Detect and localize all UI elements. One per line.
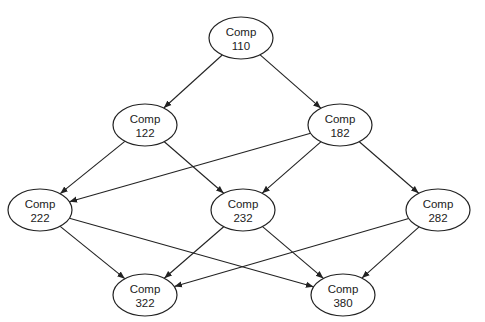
edge-110-to-122	[164, 55, 222, 108]
node-comp-182: Comp182	[308, 104, 372, 146]
edge-122-to-222	[60, 141, 125, 193]
edge-122-to-232	[164, 142, 223, 194]
edge-182-to-232	[262, 142, 321, 193]
edge-222-to-322	[60, 226, 125, 278]
edge-232-to-322	[164, 227, 223, 279]
node-ellipse	[308, 104, 372, 146]
node-ellipse	[209, 17, 273, 59]
node-label-line1: Comp	[325, 113, 356, 125]
node-label-line1: Comp	[423, 198, 454, 210]
node-label-line1: Comp	[130, 283, 161, 295]
node-ellipse	[211, 189, 275, 231]
nodes-layer: Comp110Comp122Comp182Comp222Comp232Comp2…	[8, 17, 470, 316]
node-comp-232: Comp232	[211, 189, 275, 231]
node-label-line2: 222	[30, 212, 49, 224]
node-comp-122: Comp122	[113, 104, 177, 146]
node-ellipse	[311, 274, 375, 316]
dependency-graph: Comp110Comp122Comp182Comp222Comp232Comp2…	[0, 0, 485, 322]
node-label-line1: Comp	[25, 198, 56, 210]
node-label-line1: Comp	[226, 26, 257, 38]
node-label-line2: 122	[135, 127, 154, 139]
node-label-line1: Comp	[130, 113, 161, 125]
node-label-line2: 322	[135, 297, 154, 309]
edge-182-to-282	[359, 142, 418, 194]
node-comp-380: Comp380	[311, 274, 375, 316]
node-ellipse	[8, 189, 72, 231]
node-comp-322: Comp322	[113, 274, 177, 316]
node-label-line2: 282	[428, 212, 447, 224]
edge-182-to-222	[69, 133, 310, 201]
edge-222-to-380	[69, 218, 313, 286]
edge-282-to-322	[174, 218, 408, 286]
node-ellipse	[406, 189, 470, 231]
node-comp-222: Comp222	[8, 189, 72, 231]
node-ellipse	[113, 104, 177, 146]
node-comp-110: Comp110	[209, 17, 273, 59]
node-label-line1: Comp	[328, 283, 359, 295]
node-ellipse	[113, 274, 177, 316]
node-label-line1: Comp	[228, 198, 259, 210]
edge-110-to-182	[260, 55, 321, 108]
node-label-line2: 232	[233, 212, 252, 224]
edges-layer	[60, 55, 419, 287]
edge-282-to-380	[362, 227, 419, 278]
node-comp-282: Comp282	[406, 189, 470, 231]
node-label-line2: 380	[333, 297, 352, 309]
node-label-line2: 110	[232, 40, 250, 52]
node-label-line2: 182	[330, 127, 349, 139]
